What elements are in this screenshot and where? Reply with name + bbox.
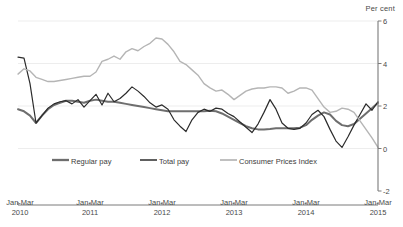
legend-line-swatch — [140, 156, 157, 166]
legend-item-label: Consumer Prices Index — [239, 157, 317, 166]
x-axis-tick-label-year: 2012 — [148, 208, 176, 218]
legend-item-label: Total pay — [159, 157, 189, 166]
y-axis-tick-label: 6 — [383, 17, 387, 26]
x-axis-tick-label: Jan-Mar2013 — [220, 198, 248, 217]
series-line-consumer-prices-index — [18, 38, 378, 147]
legend-line-swatch — [52, 156, 69, 166]
legend-item-label: Regular pay — [71, 157, 111, 166]
x-axis-tick-label: Jan-Mar2012 — [148, 198, 176, 217]
x-axis-tick-label-year: 2015 — [364, 208, 392, 218]
gridlines-group — [18, 21, 378, 149]
x-axis-tick-label: Jan-Mar2010 — [6, 198, 34, 217]
y-axis-tick-label: -2 — [383, 187, 390, 196]
x-axis-tick-label-year: 2013 — [220, 208, 248, 218]
x-axis-tick-label-year: 2011 — [76, 208, 104, 218]
x-axis-tick-label-period: Jan-Mar — [148, 198, 176, 208]
x-axis-tick-label-period: Jan-Mar — [76, 198, 104, 208]
legend-item-regular-pay[interactable]: Regular pay — [52, 156, 111, 166]
chart-legend: Regular payTotal payConsumer Prices Inde… — [52, 156, 352, 170]
series-line-total-pay — [18, 57, 378, 147]
x-axis-tick-label-period: Jan-Mar — [220, 198, 248, 208]
legend-item-consumer-prices-index[interactable]: Consumer Prices Index — [220, 156, 317, 166]
y-axis-tick-labels: 6420-2 — [379, 21, 403, 191]
x-axis-tick-labels: Jan-Mar2010Jan-Mar2011Jan-Mar2012Jan-Mar… — [0, 196, 403, 226]
x-axis-tick-label-year: 2010 — [6, 208, 34, 218]
x-axis-tick-label: Jan-Mar2014 — [292, 198, 320, 217]
legend-line-swatch — [220, 156, 237, 166]
x-axis-tick-label-period: Jan-Mar — [364, 198, 392, 208]
series-lines-group — [18, 38, 378, 147]
legend-item-total-pay[interactable]: Total pay — [140, 156, 189, 166]
y-axis-tick-label: 4 — [383, 59, 387, 68]
chart-container: Per cent 6420-2 Jan-Mar2010Jan-Mar2011Ja… — [0, 0, 403, 227]
x-axis-tick-label: Jan-Mar2015 — [364, 198, 392, 217]
x-axis-tick-label-year: 2014 — [292, 208, 320, 218]
y-axis-tick-label: 0 — [383, 144, 387, 153]
x-axis-tick-label-period: Jan-Mar — [6, 198, 34, 208]
y-axis-tick-label: 2 — [383, 102, 387, 111]
x-axis-tick-label-period: Jan-Mar — [292, 198, 320, 208]
x-axis-tick-label: Jan-Mar2011 — [76, 198, 104, 217]
y-axis-unit-label: Per cent — [365, 4, 395, 13]
